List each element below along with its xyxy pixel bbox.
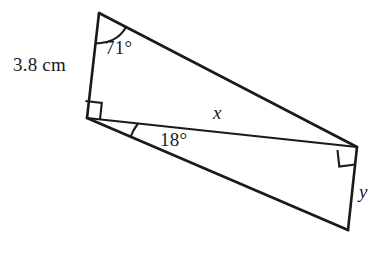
label-angle-71: 71° [105, 38, 132, 57]
edge-bc-x [87, 118, 357, 147]
edge-ac-hypotenuse [99, 13, 357, 147]
label-side-y: y [359, 182, 367, 201]
label-angle-18: 18° [160, 130, 187, 149]
edge-cd-y [348, 147, 357, 230]
arc-18-icon [131, 124, 139, 138]
figure-canvas [0, 0, 385, 260]
label-side-3-8-cm: 3.8 cm [13, 55, 66, 74]
geometry-figure: 3.8 cm 71° 18° x y [0, 0, 385, 260]
right-angle-right-icon [338, 150, 356, 167]
edge-bd-hypotenuse [87, 118, 348, 230]
label-side-x: x [213, 103, 221, 122]
